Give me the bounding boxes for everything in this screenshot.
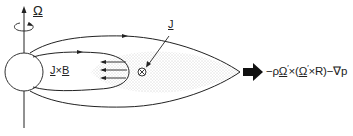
b-symbol: B [62, 64, 69, 76]
formula-rest: ×R)−∇p [308, 65, 347, 77]
planet [5, 53, 43, 91]
rotation-label: Ω [33, 3, 43, 18]
jxb-force-label: J×B [50, 64, 69, 76]
force-balance-formula: −ρΩ′×(Ω′×R)−∇p [266, 63, 347, 78]
outward-force-arrow-icon [243, 63, 263, 81]
current-symbol: J [168, 18, 174, 30]
omega-symbol: Ω [33, 3, 43, 18]
formula-omega-2: Ω [299, 65, 307, 77]
plasma-sheet [80, 40, 240, 104]
formula-cross-1: ×( [289, 65, 299, 77]
current-into-page-icon [138, 68, 146, 76]
formula-prefix: −ρ [266, 65, 279, 77]
current-label: J [168, 18, 174, 30]
formula-omega-1: Ω [279, 65, 287, 77]
